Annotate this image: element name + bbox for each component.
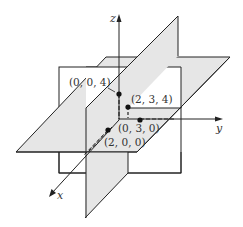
point-0-0-4 [116,91,121,96]
point-2-3-4 [125,104,130,109]
x-axis-label: x [57,189,64,202]
coordinate-planes-diagram: z y x (0, 0, 4) (2, 3, 4) (0, 3, 0) (2, … [0,0,243,227]
label-0-3-0: (0, 3, 0) [118,122,160,134]
label-2-0-0: (2, 0, 0) [104,136,146,148]
point-2-0-0 [105,127,110,132]
label-0-0-4: (0, 0, 4) [69,76,111,88]
z-axis-label: z [109,12,116,25]
z-axis-arrow-icon [117,14,122,22]
y-axis-arrow-icon [215,117,223,122]
xz-plane-lower [85,152,128,218]
label-2-3-4: (2, 3, 4) [131,93,173,105]
y-axis-label: y [215,122,223,135]
